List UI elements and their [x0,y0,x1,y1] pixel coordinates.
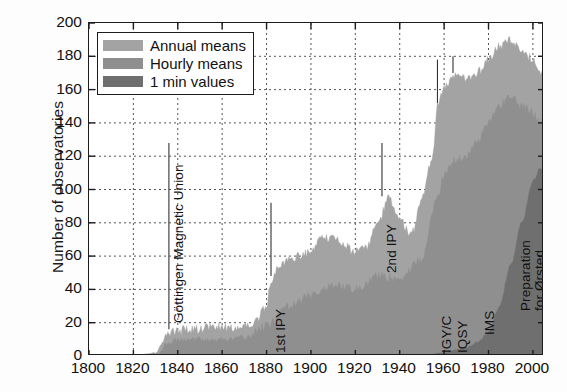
chart-figure: Number of observatories 2001801601401201… [0,0,567,392]
legend-label-hourly-means: Hourly means [150,56,243,71]
annotation-2nd-ipy: 2nd IPY [385,224,399,273]
annotation-text-line2: for Ørsted [533,240,543,311]
annotation-text: IQSY [456,320,470,353]
legend-swatch-1-min-values [103,76,143,87]
legend-item-1-min-values: 1 min values [103,72,246,90]
annotation-preparation: Preparationfor Ørsted [519,240,543,311]
legend-swatch-annual-means [103,40,143,51]
legend-item-annual-means: Annual means [103,36,246,54]
chart-legend: Annual means Hourly means 1 min values [97,32,254,95]
annotation-text: Göttingen Magnetic Union [172,165,186,324]
x-tick-label-2000: 2000 [502,360,562,376]
annotation-igy-c: IGY/C [440,316,454,353]
legend-label-annual-means: Annual means [150,38,246,53]
annotation-g-ttingen-magnetic-union: Göttingen Magnetic Union [172,165,186,324]
legend-label-1-min-values: 1 min values [150,74,234,89]
annotation-ims: IMS [483,311,497,335]
annotation-text: 2nd IPY [385,224,399,273]
annotation-text: 1st IPY [274,309,288,353]
legend-item-hourly-means: Hourly means [103,54,246,72]
annotation-iqsy: IQSY [456,320,470,353]
annotation-text: IMS [483,311,497,335]
annotation-text: IGY/C [440,316,454,353]
plot-area: Annual means Hourly means 1 min values G… [88,22,543,355]
legend-swatch-hourly-means [103,58,143,69]
annotation-1st-ipy: 1st IPY [274,309,288,353]
